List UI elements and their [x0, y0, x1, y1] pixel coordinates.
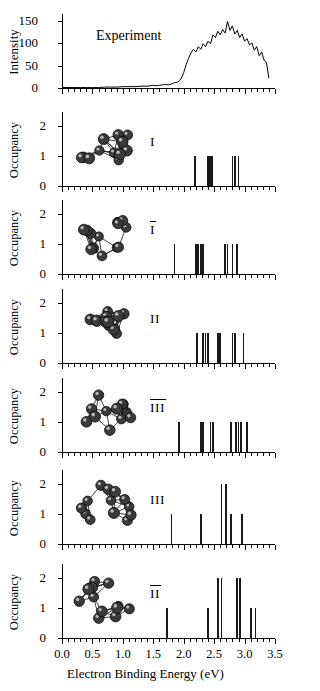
y-tick-label-5-2: 2: [30, 476, 46, 492]
x-tick-mark: [99, 639, 100, 642]
x-axis-baseline: [62, 274, 275, 275]
y-tick-label-6-1: 1: [30, 600, 46, 616]
panel-roman-label-2: I: [150, 222, 155, 238]
y-tick-label-3-1: 1: [30, 325, 46, 341]
x-tick-mark: [239, 545, 240, 548]
x-tick-mark: [147, 545, 148, 548]
x-tick-mark: [226, 187, 227, 190]
x-tick-mark: [190, 453, 191, 456]
occupancy-stick: [221, 484, 223, 544]
x-tick-mark: [208, 364, 209, 367]
x-tick-mark: [245, 639, 246, 644]
y-tick-label-5-1: 1: [30, 506, 46, 522]
occupancy-stick: [250, 608, 252, 638]
x-tick-mark: [62, 364, 63, 369]
x-tick-mark: [232, 453, 233, 456]
x-tick-mark: [196, 545, 197, 548]
x-tick-mark: [220, 187, 221, 190]
x-tick-mark: [184, 453, 185, 458]
x-tick-mark: [141, 187, 142, 190]
cluster-structure-I-bar: [70, 208, 144, 264]
x-tick-mark: [257, 364, 258, 367]
occupancy-stick: [239, 578, 241, 638]
x-tick-mark: [214, 545, 215, 550]
occupancy-stick: [166, 608, 168, 638]
x-tick-mark: [232, 545, 233, 548]
cluster-structure-III: [70, 478, 144, 534]
x-tick-mark: [135, 453, 136, 456]
occupancy-stick: [246, 422, 248, 452]
x-tick-mark: [166, 187, 167, 190]
x-tick-label-7: 3.5: [267, 647, 283, 662]
x-tick-mark: [226, 275, 227, 278]
y-axis-spine: [62, 470, 63, 544]
x-tick-mark: [190, 364, 191, 367]
x-tick-mark: [92, 364, 93, 369]
x-axis-baseline: [62, 544, 275, 545]
x-tick-mark: [263, 187, 264, 190]
occupancy-stick: [232, 244, 234, 274]
occupancy-stick: [171, 514, 173, 544]
occupancy-stick: [219, 333, 221, 363]
x-tick-mark: [68, 545, 69, 548]
x-tick-mark: [269, 453, 270, 456]
panel-roman-text: I: [150, 222, 155, 238]
x-tick-mark: [129, 275, 130, 278]
x-tick-mark: [123, 453, 124, 458]
x-tick-mark: [214, 364, 215, 369]
x-tick-label-6: 3.0: [237, 647, 253, 662]
x-tick-mark: [214, 639, 215, 644]
occupancy-stick: [230, 514, 232, 544]
x-tick-mark: [80, 364, 81, 367]
x-tick-mark: [141, 364, 142, 367]
x-tick-mark: [269, 275, 270, 278]
x-tick-mark: [80, 545, 81, 548]
x-tick-mark: [147, 187, 148, 190]
y-tick-label-1-1: 1: [30, 148, 46, 164]
x-tick-mark: [178, 453, 179, 456]
cluster-structure-II-bar: [70, 572, 144, 628]
x-tick-mark: [172, 275, 173, 278]
x-axis-baseline: [62, 638, 275, 639]
x-tick-mark: [111, 453, 112, 456]
x-tick-mark: [257, 187, 258, 190]
x-tick-mark: [257, 275, 258, 278]
x-tick-mark: [86, 545, 87, 548]
experiment-label: Experiment: [96, 28, 161, 44]
x-tick-mark: [245, 545, 246, 550]
x-tick-mark: [166, 364, 167, 367]
x-tick-mark: [86, 364, 87, 367]
panel-roman-text: III: [150, 492, 165, 507]
x-tick-mark: [232, 364, 233, 367]
x-tick-label-3: 1.5: [145, 647, 161, 662]
occupancy-stick: [202, 422, 204, 452]
x-tick-mark: [153, 639, 154, 644]
x-tick-mark: [92, 275, 93, 280]
occupancy-stick: [241, 514, 243, 544]
panel-roman-label-4: III: [150, 400, 165, 416]
x-tick-mark: [178, 545, 179, 548]
x-tick-mark: [220, 545, 221, 548]
x-tick-mark: [86, 453, 87, 456]
occupancy-stick: [225, 484, 227, 544]
y-tick-label-3-2: 2: [30, 295, 46, 311]
x-tick-mark: [269, 187, 270, 190]
x-tick-mark: [226, 364, 227, 367]
x-tick-mark: [178, 639, 179, 642]
x-tick-mark: [105, 639, 106, 642]
x-tick-mark: [62, 453, 63, 458]
x-tick-mark: [80, 639, 81, 642]
x-tick-mark: [123, 545, 124, 550]
x-tick-mark: [214, 453, 215, 458]
occupancy-stick: [174, 244, 176, 274]
x-tick-label-4: 2.0: [176, 647, 192, 662]
x-tick-mark: [111, 275, 112, 278]
x-tick-mark: [196, 453, 197, 456]
x-tick-mark: [147, 453, 148, 456]
x-tick-mark: [263, 453, 264, 456]
cluster-structure-I: [70, 120, 144, 176]
x-tick-mark: [153, 275, 154, 280]
x-tick-mark: [275, 275, 276, 280]
x-tick-mark: [196, 187, 197, 190]
x-tick-mark: [226, 545, 227, 548]
